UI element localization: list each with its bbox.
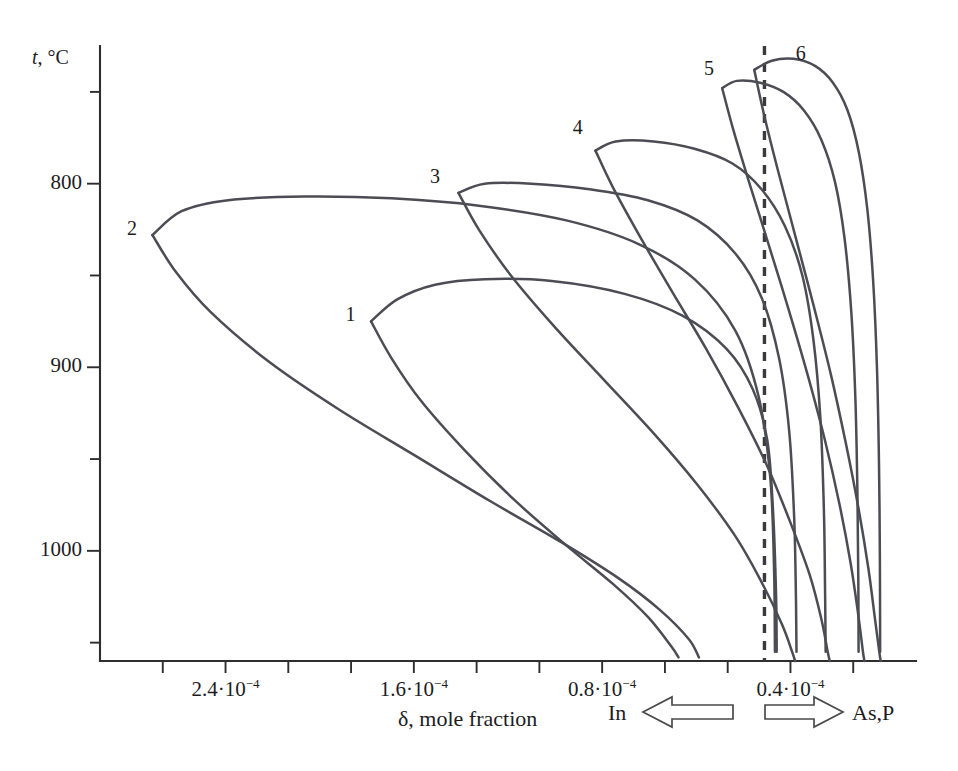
curve-label-2: 2: [127, 217, 137, 240]
curve-label-1: 1: [346, 303, 356, 326]
curve-3-upper: [458, 183, 796, 652]
curve-5-lower: [722, 88, 864, 661]
x-tick-base: ·10: [594, 677, 622, 701]
x-tick-label: 1.6·10−4: [344, 676, 484, 702]
direction-label-asp: As,P: [852, 700, 894, 726]
curve-label-5: 5: [704, 57, 714, 80]
y-tick-label: 800: [20, 170, 82, 195]
direction-label-in: In: [608, 700, 626, 726]
x-tick-label: 2.4·10−4: [156, 676, 296, 702]
curve-2-upper: [152, 196, 774, 651]
x-tick-label: 0.4·10−4: [720, 676, 860, 702]
x-tick-label: 0.8·10−4: [532, 676, 672, 702]
x-tick-base: ·10: [218, 677, 246, 701]
y-tick-label: 900: [20, 353, 82, 378]
phase-diagram-svg: [0, 0, 958, 771]
x-tick-exponent: −4: [434, 676, 448, 691]
x-axis-title: δ, mole fraction: [398, 706, 537, 732]
curve-3-lower: [458, 193, 795, 661]
x-tick-mantissa: 2.4: [191, 677, 217, 701]
x-tick-mantissa: 1.6: [380, 677, 406, 701]
y-ticks-group: [87, 92, 100, 643]
x-ticks-group: [163, 661, 853, 673]
y-axis-label: t, °C: [32, 46, 69, 69]
figure-root: t, °C 1000900800 2.4·10−41.6·10−40.8·10−…: [0, 0, 958, 771]
y-tick-label: 1000: [20, 537, 82, 562]
axes-group: [100, 46, 916, 661]
x-tick-base: ·10: [783, 677, 811, 701]
curve-2-lower: [152, 235, 698, 657]
curves-group: [152, 58, 880, 661]
curve-1-lower: [371, 321, 678, 657]
x-tick-exponent: −4: [622, 676, 636, 691]
curve-label-4: 4: [573, 116, 583, 139]
y-axis-label-unit: , °C: [38, 46, 69, 68]
x-tick-exponent: −4: [246, 676, 260, 691]
curve-label-3: 3: [430, 165, 440, 188]
x-tick-mantissa: 0.8: [568, 677, 594, 701]
x-tick-base: ·10: [406, 677, 434, 701]
curve-5-upper: [722, 81, 858, 652]
curve-label-6: 6: [796, 42, 806, 65]
x-tick-mantissa: 0.4: [756, 677, 782, 701]
x-tick-exponent: −4: [811, 676, 825, 691]
